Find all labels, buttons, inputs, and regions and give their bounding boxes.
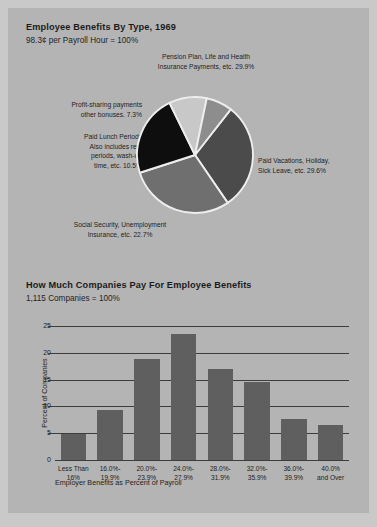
bar-chart-bar	[134, 359, 160, 460]
pie-chart-graphic	[134, 94, 256, 216]
bar-chart-x-axis-label: Employer Benefits as Percent of Payroll	[55, 478, 182, 487]
bar-chart-axis-baseline	[55, 460, 349, 461]
bar-chart-bar	[281, 419, 307, 460]
bar-chart-y-tick-0: 0	[47, 456, 51, 463]
bar-chart-bar	[97, 410, 123, 460]
pie-label-social-security: Social Security, UnemploymentInsurance, …	[40, 220, 200, 239]
bar-chart-gridline-10	[55, 406, 349, 407]
bar-chart-plot-area: Percent of Companies 0510152025Less Than…	[55, 326, 349, 460]
bar-chart-bar	[61, 434, 87, 460]
bar-chart-gridline-15	[55, 380, 349, 381]
bar-chart-x-tick-label: 28.0%-31.9%	[202, 464, 239, 482]
bar-chart-bar	[318, 425, 344, 460]
bar-chart-x-tick-label: 40.0%and Over	[312, 464, 349, 482]
pie-label-pension: Pension Plan, Life and HealthInsurance P…	[126, 52, 286, 71]
bar-chart-gridline-20	[55, 353, 349, 354]
bar-chart-section: How Much Companies Pay For Employee Bene…	[8, 308, 369, 513]
bar-chart-y-tick-dash-15	[48, 380, 55, 381]
bar-chart-y-tick-dash-10	[48, 406, 55, 407]
bar-chart-bar	[208, 369, 234, 460]
pie-label-paid-lunch: Paid Lunch PeriodsAlso includes restperi…	[26, 132, 142, 170]
bar-chart-x-tick-label: 32.0%-35.9%	[239, 464, 276, 482]
bar-chart-y-tick-dash-5	[48, 433, 55, 434]
pie-chart-title: Employee Benefits By Type, 1969	[26, 22, 176, 32]
bar-chart-title: How Much Companies Pay For Employee Bene…	[26, 280, 252, 290]
bar-chart-x-tick-label: 36.0%-39.9%	[276, 464, 313, 482]
bar-chart-gridline-25	[55, 326, 349, 327]
pie-svg	[134, 94, 256, 216]
bar-chart-bar	[171, 334, 197, 460]
bar-chart-subtitle: 1,115 Companies = 100%	[26, 294, 120, 303]
poster-page: Employee Benefits By Type, 1969 98.3¢ pe…	[8, 8, 369, 513]
bar-chart-bar	[244, 382, 270, 460]
bar-chart-y-tick-dash-25	[48, 326, 55, 327]
pie-label-profit-sharing: Profit-sharing paymentsother bonuses. 7.…	[26, 100, 142, 119]
bar-chart-y-tick-dash-20	[48, 353, 55, 354]
pie-label-paid-vacations: Paid Vacations, Holiday,Sick Leave, etc.…	[258, 156, 366, 175]
pie-chart-subtitle: 98.3¢ per Payroll Hour = 100%	[26, 36, 138, 45]
bar-chart-y-axis-label: Percent of Companies	[41, 326, 53, 460]
